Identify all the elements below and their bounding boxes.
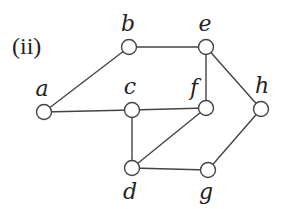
node-label-e: e [198, 11, 211, 36]
node-label-d: d [123, 179, 137, 204]
edge-a-b [44, 47, 129, 112]
edge-c-f [132, 108, 206, 110]
edge-e-h [206, 47, 261, 109]
graph-diagram: (ii) abcefhdg [0, 0, 291, 209]
node-c [125, 103, 140, 118]
node-g [201, 163, 216, 178]
edge-d-g [132, 168, 208, 170]
node-label-f: f [188, 75, 202, 100]
node-h [254, 102, 269, 117]
edge-g-h [208, 109, 261, 170]
edges [44, 47, 261, 170]
node-label-g: g [199, 179, 213, 204]
node-e [199, 40, 214, 55]
node-label-b: b [121, 11, 135, 36]
edge-a-c [44, 110, 132, 112]
node-label-c: c [124, 74, 136, 99]
node-b [122, 40, 137, 55]
node-a [37, 105, 52, 120]
node-label-h: h [255, 73, 269, 98]
edge-f-d [132, 108, 206, 168]
nodes: abcefhdg [35, 11, 269, 204]
figure-label: (ii) [12, 33, 41, 59]
node-label-a: a [35, 76, 48, 101]
node-d [125, 161, 140, 176]
node-f [199, 101, 214, 116]
